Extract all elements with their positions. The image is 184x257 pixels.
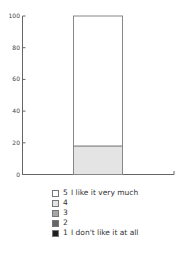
legend-swatch-4 [52,200,59,207]
legend-item-2: 2 [52,218,182,228]
legend: 5 I like it very much 4 3 2 1 I don't li… [52,188,182,238]
legend-num: 4 [63,198,71,208]
y-tick-label: 40 [12,107,20,114]
y-tick-label: 60 [12,75,20,82]
y-tick-label: 100 [9,12,21,19]
y-tick-label: 0 [16,171,20,178]
legend-item-4: 4 [52,198,182,208]
y-tick-label: 80 [12,44,20,51]
legend-swatch-2 [52,220,59,227]
bar-segment [74,16,123,146]
legend-swatch-3 [52,210,59,217]
y-tick-label: 20 [12,139,20,146]
legend-num: 1 [63,228,71,238]
bar-segments [74,16,123,175]
legend-num: 2 [63,218,71,228]
legend-item-5: 5 I like it very much [52,188,182,198]
legend-item-3: 3 [52,208,182,218]
legend-num: 5 [63,188,71,198]
legend-swatch-5 [52,190,59,197]
legend-label: I don't like it at all [71,228,138,238]
stacked-bar-chart: 020406080100 [0,0,184,185]
bar-segment [74,146,123,175]
legend-label: I like it very much [71,188,138,198]
legend-swatch-1 [52,230,59,237]
legend-item-1: 1 I don't like it at all [52,228,182,238]
legend-num: 3 [63,208,71,218]
